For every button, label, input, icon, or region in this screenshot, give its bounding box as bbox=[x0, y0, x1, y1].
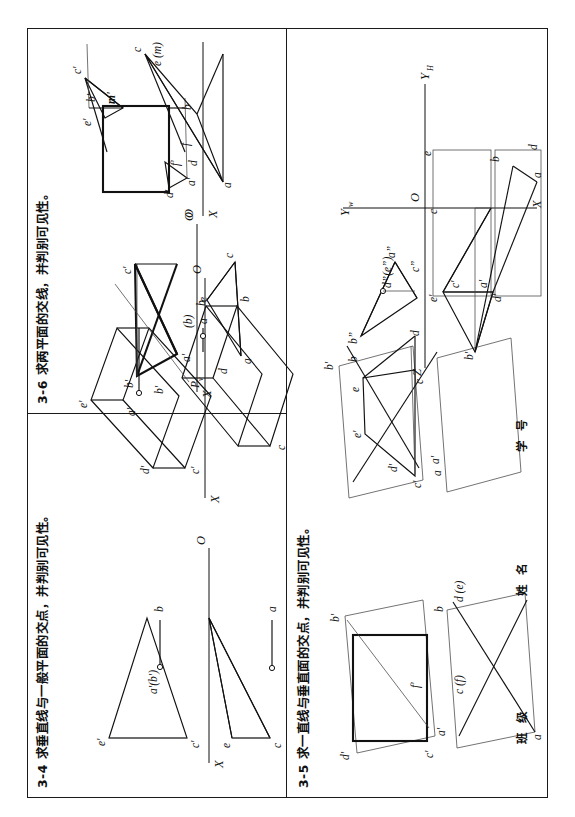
label-b-35l: b bbox=[433, 606, 445, 612]
label-c-prime-34l: c' bbox=[189, 739, 201, 747]
label-c-36m: c bbox=[131, 46, 143, 51]
axis-label-x-36l: X bbox=[200, 389, 214, 399]
label-a-36l: a bbox=[241, 358, 253, 364]
point-marker-ab-prime bbox=[157, 664, 162, 669]
form-label-class: 班 级 bbox=[513, 708, 529, 743]
label-c-34r: c bbox=[275, 444, 287, 449]
label-c-prime-36m: c' bbox=[71, 65, 83, 73]
label-e-36r: e bbox=[421, 150, 433, 155]
axis-label-x-34l: X bbox=[212, 759, 226, 769]
label-c-f-35l: c (f) bbox=[453, 674, 466, 693]
label-d-e-double-prime: d”(e”) bbox=[381, 256, 394, 287]
label-c-prime-35r: c' bbox=[411, 479, 423, 487]
form-label-student-id: 学 号 bbox=[513, 416, 529, 451]
label-c-prime-34r: c' bbox=[189, 465, 201, 473]
figure-3-4-left: X O a'(b') e' c' b a e c bbox=[95, 535, 283, 768]
label-a-prime-36m: a' bbox=[185, 177, 197, 186]
label-d-prime-35r: d' bbox=[387, 463, 399, 472]
figure-3-6-middle: X O c' e' b' m' d' a' f' bbox=[71, 41, 233, 218]
axis-label-x-36m: X bbox=[206, 209, 220, 219]
figure-3-6-right: Z Y H Y w O X b” a” d”(e”) c” b' e' c' bbox=[287, 34, 557, 414]
label-b-prime-36m: b' bbox=[85, 93, 97, 102]
label-e-prime-34l: e' bbox=[95, 737, 107, 745]
figure-3-5-left: d' b' c' a' f' b d (e) c (f) a bbox=[329, 580, 543, 760]
axis-label-yw-sub-36r: w bbox=[346, 201, 355, 207]
axis-label-o-34l: O bbox=[194, 535, 208, 544]
label-b-prime-36l: b' bbox=[123, 379, 135, 388]
label-d-prime-36m: d' bbox=[163, 189, 175, 198]
label-a-prime-36r: a' bbox=[477, 279, 489, 288]
label-c-double-prime: c” bbox=[409, 260, 421, 272]
worksheet-sheet: 3-4 求垂直线与一般平面的交点，并判别可见性。 X O a'(b') e' bbox=[15, 14, 561, 804]
label-f-prime-36m: f' bbox=[169, 159, 182, 165]
label-f-prime-35l: f' bbox=[409, 681, 422, 687]
label-e-prime-36m: e' bbox=[81, 117, 93, 125]
label-c-prime-36r: c' bbox=[449, 279, 461, 287]
label-e-34l: e bbox=[220, 742, 232, 747]
point-marker-d-e-double-prime bbox=[380, 288, 385, 293]
label-d-e-35l: d (e) bbox=[453, 580, 466, 602]
label-a-prime-36l: a' bbox=[180, 353, 192, 362]
label-a-35r: a bbox=[431, 470, 443, 476]
label-d-36m: d bbox=[187, 160, 199, 166]
form-label-name: 姓 名 bbox=[513, 560, 529, 595]
label-c-34l: c bbox=[271, 742, 283, 747]
label-b-36m: b bbox=[181, 104, 193, 110]
label-m-prime-36m: m' bbox=[105, 91, 117, 103]
label-a-prime-35l: a' bbox=[435, 727, 447, 736]
axis-label-o-36m: O bbox=[182, 208, 196, 217]
label-b-36r: b bbox=[489, 156, 501, 162]
label-a-36m: a bbox=[221, 182, 233, 188]
label-d-prime-36r: d' bbox=[491, 293, 503, 302]
axis-label-yh-sub-36r: H bbox=[426, 64, 435, 72]
label-a-34l: a bbox=[266, 606, 278, 612]
label-c-36l: c bbox=[223, 252, 235, 257]
figure-3-6-left: X O c' b' a' P v b c a bbox=[115, 211, 253, 398]
axis-label-x-36r: X bbox=[530, 199, 544, 209]
label-e-m-36m: e (m) bbox=[151, 41, 164, 65]
axis-label-z-36r: Z bbox=[410, 368, 424, 376]
label-e-prime-35r: e' bbox=[351, 429, 363, 437]
point-marker-a bbox=[269, 665, 274, 670]
label-e-prime-36r: e' bbox=[427, 293, 439, 301]
label-a-double-prime: a” bbox=[385, 245, 397, 257]
figure-3-6-group: X O c' b' a' P v b c a X O bbox=[27, 34, 287, 414]
label-pv-36l: P bbox=[189, 380, 201, 388]
axis-label-o-36r: O bbox=[408, 192, 422, 201]
label-b-prime-35l: b' bbox=[329, 613, 341, 622]
label-b-36l: b bbox=[195, 300, 207, 306]
label-pv-subscript-36l: v bbox=[196, 377, 205, 381]
label-d-prime-35l: d' bbox=[339, 751, 351, 760]
label-c-prime-35l: c' bbox=[423, 749, 435, 757]
label-a-35l: a bbox=[531, 734, 543, 740]
label-b-double-prime: b” bbox=[347, 331, 359, 343]
axis-label-yh-36r: Y bbox=[418, 71, 432, 80]
axis-label-x-34r: X bbox=[208, 494, 222, 504]
label-b-34l: b bbox=[153, 606, 165, 612]
label-d-36r: d bbox=[527, 144, 539, 150]
label-c-prime-36l: c' bbox=[121, 265, 133, 273]
label-a-prime-b-prime: a'(b') bbox=[147, 669, 160, 693]
label-c-36r: c bbox=[427, 208, 439, 213]
label-b-prime-36r: b' bbox=[463, 351, 475, 360]
label-a-prime-35r: a' bbox=[429, 455, 441, 464]
label-d-prime-34r: d' bbox=[139, 465, 151, 474]
label-a-36r: a bbox=[531, 172, 543, 178]
